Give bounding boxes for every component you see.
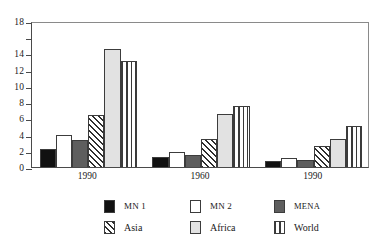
y-tick-mark (26, 120, 32, 121)
bar-world (121, 61, 137, 167)
legend-row: MN 1MN 2MENA (104, 196, 339, 217)
y-axis-label: 18 (14, 18, 24, 28)
bar-asia (201, 139, 217, 167)
legend-label: World (294, 223, 319, 233)
y-tick-mark (26, 104, 32, 105)
legend-label: MN 2 (210, 202, 232, 211)
legend-swatch-icon (274, 200, 285, 213)
plot-area: 0246810121418 (31, 22, 369, 168)
x-axis-label: 1960 (191, 172, 210, 182)
bar-mn-1 (265, 161, 281, 167)
bar-world (233, 106, 249, 167)
bar-group (152, 23, 249, 167)
legend-label: Africa (210, 223, 236, 233)
y-tick-mark (26, 153, 32, 154)
bar-mn-1 (152, 157, 168, 167)
legend-item-mena: MENA (274, 200, 339, 213)
x-axis-label: 1990 (303, 172, 322, 182)
bar-world (346, 126, 362, 167)
legend-swatch-icon (104, 221, 115, 234)
y-axis-label: 8 (19, 99, 24, 109)
legend-item-world: World (274, 221, 339, 234)
y-tick-mark (26, 88, 32, 89)
y-tick-mark (26, 55, 32, 56)
legend-label: Asia (124, 223, 142, 233)
x-axis-label: 1990 (78, 172, 97, 182)
bar-mena (72, 140, 88, 167)
y-tick-mark (26, 23, 32, 24)
bar-mn-2 (56, 135, 72, 167)
chart-legend: MN 1MN 2MENAAsiaAfricaWorld (104, 196, 339, 238)
legend-swatch-icon (190, 221, 201, 234)
y-axis-label: 14 (14, 51, 24, 61)
y-axis-label: 0 (19, 164, 24, 174)
bar-mena (185, 155, 201, 167)
legend-swatch-icon (274, 221, 285, 234)
bar-group (40, 23, 137, 167)
legend-item-africa: Africa (190, 221, 274, 234)
legend-label: MENA (294, 202, 320, 211)
legend-swatch-icon (190, 200, 201, 213)
bar-africa (217, 114, 233, 167)
bar-chart-figure: 0246810121418 199019601990 MN 1MN 2MENAA… (0, 0, 387, 248)
bar-africa (330, 139, 346, 167)
y-axis-label: 12 (14, 67, 24, 77)
legend-swatch-icon (104, 200, 115, 213)
bar-group (265, 23, 362, 167)
y-tick-mark (26, 169, 32, 170)
y-axis-label: 10 (14, 83, 24, 93)
bar-mn-2 (169, 152, 185, 167)
bar-asia (88, 115, 104, 167)
bar-africa (104, 49, 120, 167)
legend-item-mn-2: MN 2 (190, 200, 274, 213)
y-axis-label: 2 (19, 148, 24, 158)
y-tick-mark (26, 39, 32, 40)
y-axis-label: 4 (19, 132, 24, 142)
bar-mn-1 (40, 149, 56, 167)
legend-item-asia: Asia (104, 221, 190, 234)
legend-label: MN 1 (124, 202, 146, 211)
legend-item-mn-1: MN 1 (104, 200, 190, 213)
y-axis-label: 6 (19, 116, 24, 126)
y-tick-mark (26, 137, 32, 138)
bar-mn-2 (281, 158, 297, 167)
bar-asia (314, 146, 330, 167)
legend-row: AsiaAfricaWorld (104, 217, 339, 238)
bar-mena (297, 160, 313, 167)
y-tick-mark (26, 72, 32, 73)
